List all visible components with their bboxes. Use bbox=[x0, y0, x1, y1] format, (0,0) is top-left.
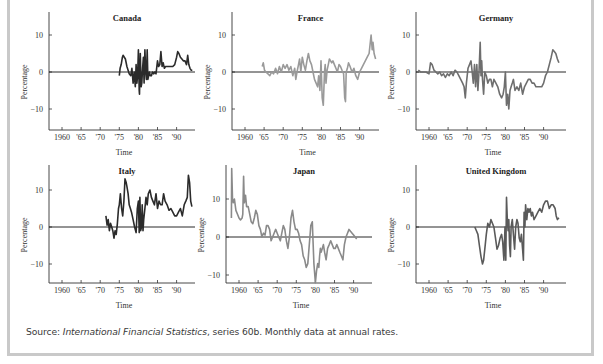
y-tick-label: 0 bbox=[39, 68, 43, 77]
x-tick-label: '70 bbox=[272, 286, 281, 295]
x-tick-label: '80 bbox=[501, 133, 510, 142]
y-axis-label: Percentage bbox=[20, 64, 29, 100]
x-tick-label: '90 bbox=[355, 133, 364, 142]
y-axis-label: Percentage bbox=[387, 217, 396, 253]
x-axis-label: Time bbox=[485, 148, 502, 157]
y-tick-label: −10 bbox=[397, 105, 410, 114]
x-tick-label: '65 bbox=[253, 286, 262, 295]
y-tick-label: 10 bbox=[212, 195, 220, 204]
y-tick-label: 10 bbox=[35, 186, 43, 195]
x-tick-label: '85 bbox=[153, 286, 162, 295]
x-tick-label: '65 bbox=[443, 133, 452, 142]
source-suffix: , series 60b. Monthly data at annual rat… bbox=[207, 326, 398, 337]
x-tick-label: '85 bbox=[336, 133, 345, 142]
chart-title: Italy bbox=[119, 166, 137, 176]
x-tick-label: '90 bbox=[539, 133, 548, 142]
y-tick-label: −10 bbox=[213, 105, 226, 114]
x-tick-label: '80 bbox=[134, 286, 143, 295]
x-tick-label: '90 bbox=[172, 286, 181, 295]
y-tick-label: 0 bbox=[406, 223, 410, 232]
x-tick-label: 1960 bbox=[54, 133, 70, 142]
y-axis-label: Percentage bbox=[197, 217, 206, 253]
chart-canada: Canada100−10Percentage1960'65'70'75'80'8… bbox=[20, 12, 195, 157]
y-tick-label: −10 bbox=[30, 260, 43, 269]
x-tick-label: 1960 bbox=[54, 286, 70, 295]
x-tick-label: '65 bbox=[443, 286, 452, 295]
data-line bbox=[106, 175, 192, 238]
source-prefix: Source: bbox=[26, 326, 63, 337]
x-tick-label: 1960 bbox=[421, 286, 437, 295]
x-tick-label: '90 bbox=[172, 133, 181, 142]
x-tick-label: '80 bbox=[311, 286, 320, 295]
x-tick-label: '75 bbox=[482, 133, 491, 142]
y-axis-label: Percentage bbox=[387, 64, 396, 100]
x-tick-label: '65 bbox=[76, 133, 85, 142]
y-tick-label: 10 bbox=[402, 186, 410, 195]
source-title: International Financial Statistics bbox=[63, 326, 207, 337]
data-line bbox=[231, 169, 356, 283]
chart-title: France bbox=[298, 13, 324, 23]
x-tick-label: '65 bbox=[76, 286, 85, 295]
x-tick-label: '75 bbox=[115, 286, 124, 295]
x-tick-label: '80 bbox=[134, 133, 143, 142]
chart-france: France100−10Percentage1960'65'70'75'80'8… bbox=[203, 12, 379, 157]
x-tick-label: '65 bbox=[259, 133, 268, 142]
x-tick-label: '75 bbox=[292, 286, 301, 295]
x-tick-label: 1960 bbox=[237, 133, 253, 142]
data-line bbox=[418, 42, 559, 109]
x-tick-label: '70 bbox=[462, 133, 471, 142]
x-axis-label: Time bbox=[299, 148, 316, 157]
chart-germany: Germany100−10Percentage1960'65'70'75'80'… bbox=[387, 12, 566, 157]
x-tick-label: '85 bbox=[330, 286, 339, 295]
x-axis-label: Time bbox=[116, 148, 133, 157]
x-tick-label: '85 bbox=[153, 133, 162, 142]
x-tick-label: '80 bbox=[317, 133, 326, 142]
x-tick-label: '75 bbox=[298, 133, 307, 142]
data-line bbox=[262, 35, 375, 105]
x-tick-label: '90 bbox=[349, 286, 358, 295]
y-tick-label: −10 bbox=[397, 260, 410, 269]
x-tick-label: '70 bbox=[95, 133, 104, 142]
chart-title: Canada bbox=[113, 13, 142, 23]
y-tick-label: 0 bbox=[216, 233, 220, 242]
x-tick-label: '70 bbox=[278, 133, 287, 142]
x-axis-label: Time bbox=[116, 301, 133, 310]
y-tick-label: 0 bbox=[39, 223, 43, 232]
chart-title: United Kingdom bbox=[466, 166, 527, 176]
data-line bbox=[475, 197, 559, 264]
x-tick-label: '70 bbox=[95, 286, 104, 295]
x-tick-label: '70 bbox=[462, 286, 471, 295]
chart-japan: Japan100−10Percentage1960'65'70'75'80'85… bbox=[197, 165, 372, 310]
x-tick-label: 1960 bbox=[421, 133, 437, 142]
x-axis-label: Time bbox=[485, 301, 502, 310]
y-tick-label: 10 bbox=[402, 31, 410, 40]
y-axis-label: Percentage bbox=[20, 217, 29, 253]
y-tick-label: 0 bbox=[406, 68, 410, 77]
charts-grid: Canada100−10Percentage1960'65'70'75'80'8… bbox=[0, 0, 603, 364]
x-tick-label: 1960 bbox=[231, 286, 247, 295]
chart-united-kingdom: United Kingdom100−10Percentage1960'65'70… bbox=[387, 165, 566, 310]
chart-title: Japan bbox=[293, 166, 315, 176]
x-tick-label: '75 bbox=[482, 286, 491, 295]
x-tick-label: '85 bbox=[520, 286, 529, 295]
x-tick-label: '90 bbox=[539, 286, 548, 295]
y-axis-label: Percentage bbox=[203, 64, 212, 100]
chart-italy: Italy100−10Percentage1960'65'70'75'80'85… bbox=[20, 165, 195, 310]
y-tick-label: 10 bbox=[218, 31, 226, 40]
y-tick-label: 0 bbox=[222, 68, 226, 77]
x-axis-label: Time bbox=[293, 301, 310, 310]
source-note: Source: International Financial Statisti… bbox=[26, 326, 398, 337]
chart-title: Germany bbox=[479, 13, 514, 23]
y-tick-label: −10 bbox=[30, 105, 43, 114]
x-tick-label: '75 bbox=[115, 133, 124, 142]
y-tick-label: 10 bbox=[35, 31, 43, 40]
x-tick-label: '80 bbox=[501, 286, 510, 295]
y-tick-label: −10 bbox=[207, 271, 220, 280]
x-tick-label: '85 bbox=[520, 133, 529, 142]
